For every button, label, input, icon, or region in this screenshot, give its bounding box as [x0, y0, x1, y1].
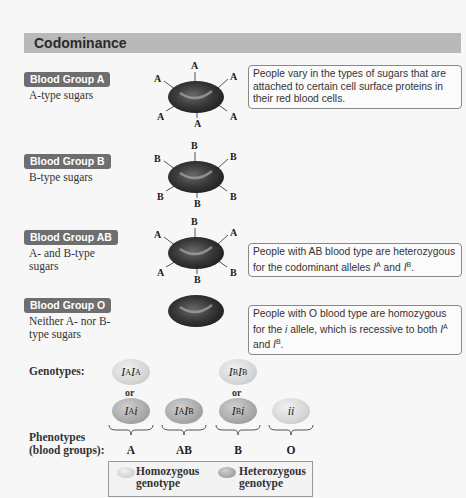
page-title: Codominance [34, 35, 127, 51]
sugar-label: A [194, 118, 201, 129]
heterozygous-swatch-icon [218, 467, 236, 478]
info-text: People with AB blood type are heterozygo… [253, 246, 455, 273]
legend-text: Homozygous [136, 465, 199, 477]
red-blood-cell-ab: B A A A B B [150, 216, 240, 286]
red-blood-cell-o [150, 285, 240, 340]
sugar-label: A [157, 267, 164, 278]
info-box-o: People with O blood type are homozygous … [248, 305, 462, 355]
sugar-label: B [191, 140, 198, 151]
phenotype-o: O [271, 444, 311, 456]
sugar-label: B [157, 191, 164, 202]
sugar-label: A [154, 229, 161, 240]
genotype-IAIA: IAIA [112, 359, 150, 385]
phenotype-b: B [218, 444, 258, 456]
genotype-IAi: IAi [112, 398, 150, 424]
blood-group-b-badge: Blood Group B [24, 154, 111, 169]
info-text: and [381, 262, 404, 273]
legend-text: Heterozygous [239, 465, 306, 477]
allele-symbol: i [134, 404, 137, 419]
red-blood-cell-b: B B B B B B [150, 140, 240, 210]
info-text: . [281, 340, 284, 351]
genotype-IBIB: IBIB [219, 359, 257, 385]
sugar-label: A [230, 111, 237, 122]
sugar-label: B [230, 267, 237, 278]
blood-group-ab-badge: Blood Group AB [24, 230, 118, 245]
phenotypes-label: Phenotypes (blood groups): [29, 431, 109, 457]
allele-superscript: B [188, 407, 193, 416]
or-label: or [232, 387, 241, 398]
allele-symbol: ii [288, 404, 295, 419]
sugar-label: B [194, 198, 201, 209]
genotype-IBi: IBi [219, 398, 257, 424]
blood-group-o-badge: Blood Group O [24, 298, 111, 313]
legend-heterozygous: Heterozygous genotype [239, 465, 306, 489]
homozygous-swatch-icon [117, 467, 135, 478]
genotype-IAIB: IAIB [165, 398, 203, 424]
blood-group-o-desc: Neither A- nor B-type sugars [29, 315, 119, 341]
info-box-sugars: People vary in the types of sugars that … [248, 65, 462, 109]
brace-icon [268, 424, 314, 436]
legend: Homozygous genotype Heterozygous genotyp… [108, 461, 313, 497]
info-text: and [253, 340, 273, 351]
sugar-label: A [230, 71, 237, 82]
red-blood-cell-icon [150, 285, 240, 340]
or-label: or [125, 387, 134, 398]
brace-icon [161, 424, 207, 436]
blood-group-b-desc: B-type sugars [29, 171, 119, 184]
red-blood-cell-a: A A A A A A [150, 60, 240, 130]
blood-group-a-desc: A-type sugars [29, 89, 119, 102]
brace-icon [215, 424, 261, 436]
sugar-label: B [191, 216, 198, 227]
genotypes-label: Genotypes: [29, 365, 85, 378]
legend-text: genotype [239, 477, 306, 489]
sugar-label: A [230, 227, 237, 238]
sugar-label: A [154, 73, 161, 84]
info-text: . [411, 262, 414, 273]
info-box-ab: People with AB blood type are heterozygo… [248, 243, 462, 277]
brace-icon [108, 424, 154, 436]
sugar-label: A [157, 111, 164, 122]
blood-group-a-badge: Blood Group A [24, 72, 110, 87]
phenotype-ab: AB [164, 444, 204, 456]
sugar-label: A [191, 60, 198, 71]
legend-homozygous: Homozygous genotype [136, 465, 199, 489]
allele-superscript: B [242, 368, 247, 377]
allele-superscript: A [443, 323, 448, 330]
allele-symbol: i [241, 404, 244, 419]
sugar-label: B [230, 151, 237, 162]
genotype-ii: ii [272, 398, 310, 424]
sugar-label: B [154, 153, 161, 164]
title-bar: Codominance [24, 33, 461, 53]
sugar-label: B [230, 191, 237, 202]
allele-superscript: A [135, 368, 141, 377]
phenotype-a: A [111, 444, 151, 456]
info-text: allele, which is recessive to both [287, 324, 440, 335]
sugar-label: B [194, 274, 201, 285]
blood-group-ab-desc: A- and B-type sugars [29, 247, 119, 273]
legend-text: genotype [136, 477, 199, 489]
